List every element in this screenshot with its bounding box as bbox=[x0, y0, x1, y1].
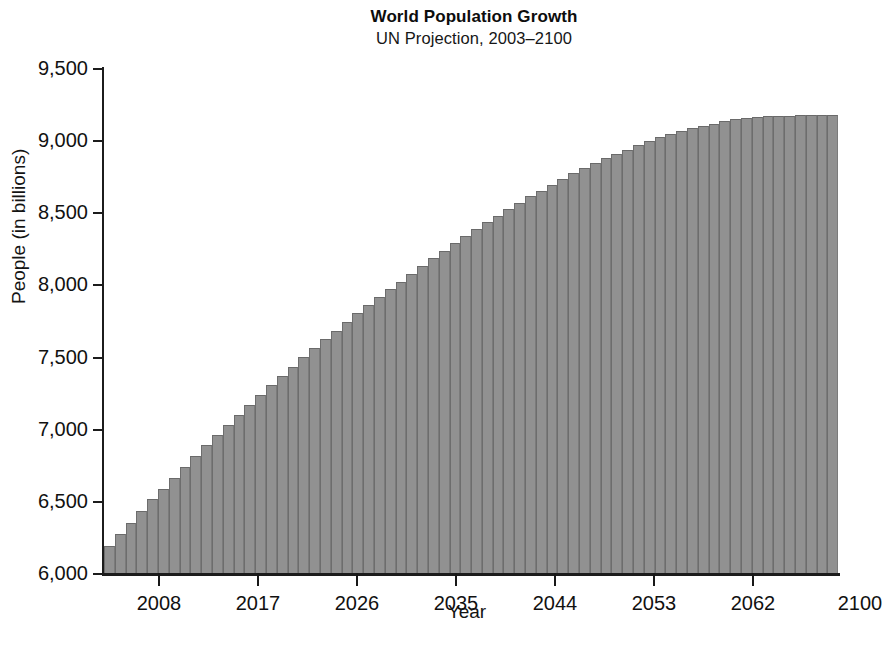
x-axis-tick bbox=[257, 573, 259, 586]
bar bbox=[201, 445, 212, 573]
bar bbox=[331, 331, 342, 573]
x-axis-tick bbox=[455, 573, 457, 586]
y-axis-label: 9,000 bbox=[38, 130, 88, 150]
bar bbox=[396, 282, 407, 573]
bar bbox=[244, 405, 255, 573]
x-axis-line bbox=[102, 573, 840, 576]
bar bbox=[806, 115, 817, 573]
bar bbox=[255, 395, 266, 573]
bar bbox=[773, 116, 784, 573]
bar bbox=[309, 348, 320, 573]
bar bbox=[557, 179, 568, 573]
bar bbox=[568, 173, 579, 573]
plot-area: People (in billions) 9,5009,0008,5008,00… bbox=[104, 68, 838, 573]
chart-title: World Population Growth bbox=[60, 6, 888, 27]
bar bbox=[536, 191, 547, 573]
bar bbox=[579, 168, 590, 573]
y-axis-label: 6,500 bbox=[38, 491, 88, 511]
bar bbox=[493, 216, 504, 573]
bar bbox=[406, 274, 417, 573]
y-axis-tick bbox=[93, 429, 104, 431]
bar bbox=[417, 266, 428, 573]
y-axis-label: 7,500 bbox=[38, 347, 88, 367]
bar bbox=[784, 116, 795, 573]
bar bbox=[428, 258, 439, 573]
bar bbox=[633, 145, 644, 573]
bar bbox=[126, 523, 137, 574]
bar bbox=[385, 289, 396, 573]
bar bbox=[158, 489, 169, 573]
bar bbox=[698, 126, 709, 573]
bar bbox=[374, 297, 385, 573]
y-axis-label: 8,500 bbox=[38, 202, 88, 222]
x-axis-tick bbox=[356, 573, 358, 586]
bar bbox=[730, 119, 741, 573]
bar bbox=[655, 137, 666, 573]
bar bbox=[439, 251, 450, 573]
bar bbox=[817, 115, 828, 573]
y-axis-title: People (in billions) bbox=[8, 4, 30, 304]
bar bbox=[169, 478, 180, 573]
title-block: World Population Growth UN Projection, 2… bbox=[0, 6, 888, 49]
y-axis-tick bbox=[93, 573, 104, 575]
y-axis-tick bbox=[93, 284, 104, 286]
x-axis-tick bbox=[653, 573, 655, 586]
bar bbox=[212, 435, 223, 573]
bar bbox=[741, 118, 752, 573]
bar bbox=[320, 339, 331, 573]
bar bbox=[763, 116, 774, 573]
bar bbox=[352, 313, 363, 573]
bar bbox=[601, 158, 612, 573]
bar bbox=[234, 415, 245, 573]
bar bbox=[180, 467, 191, 573]
bar bbox=[190, 456, 201, 573]
bar bbox=[827, 115, 838, 573]
population-growth-figure: World Population Growth UN Projection, 2… bbox=[0, 0, 888, 647]
bar bbox=[514, 203, 525, 573]
bar bbox=[450, 243, 461, 573]
bar bbox=[525, 196, 536, 573]
bar bbox=[665, 134, 676, 573]
bar bbox=[136, 511, 147, 573]
y-axis-tick bbox=[93, 212, 104, 214]
y-axis-label: 8,000 bbox=[38, 274, 88, 294]
bar bbox=[342, 322, 353, 573]
bar bbox=[503, 209, 514, 573]
bar bbox=[709, 124, 720, 573]
bar bbox=[147, 499, 158, 573]
bar bbox=[719, 121, 730, 573]
bar bbox=[288, 367, 299, 573]
y-axis-label: 9,500 bbox=[38, 58, 88, 78]
bar bbox=[547, 185, 558, 573]
bar bbox=[298, 357, 309, 573]
bar-series bbox=[104, 68, 838, 573]
bar bbox=[590, 163, 601, 573]
y-axis-tick bbox=[93, 357, 104, 359]
bar bbox=[676, 131, 687, 573]
bar bbox=[687, 128, 698, 573]
y-axis-tick bbox=[93, 501, 104, 503]
y-axis-tick bbox=[93, 68, 104, 70]
bar bbox=[115, 534, 126, 573]
bar bbox=[795, 115, 806, 573]
bar bbox=[471, 229, 482, 573]
x-axis-tick bbox=[158, 573, 160, 586]
bar bbox=[277, 376, 288, 573]
bar bbox=[223, 425, 234, 573]
x-axis-tick bbox=[554, 573, 556, 586]
bar bbox=[104, 546, 115, 573]
x-axis-tick bbox=[752, 573, 754, 586]
y-axis-label: 7,000 bbox=[38, 419, 88, 439]
chart-subtitle: UN Projection, 2003–2100 bbox=[60, 28, 888, 49]
bar bbox=[611, 154, 622, 573]
bar bbox=[363, 305, 374, 573]
bar bbox=[752, 117, 763, 573]
y-axis-label: 6,000 bbox=[38, 563, 88, 583]
x-axis-title: Year bbox=[0, 601, 888, 623]
bar bbox=[266, 385, 277, 573]
bar bbox=[482, 222, 493, 573]
bar bbox=[644, 141, 655, 573]
bar bbox=[622, 150, 633, 573]
bar bbox=[460, 236, 471, 573]
y-axis-tick bbox=[93, 140, 104, 142]
